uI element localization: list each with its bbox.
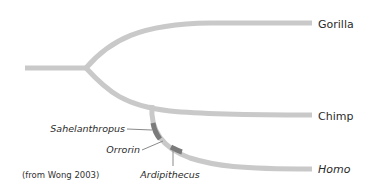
orrorin-leader: [142, 141, 163, 150]
fossil-label-sahelanthropus: Sahelanthropus: [50, 123, 125, 134]
phylogenetic-tree: Gorilla Chimp Homo Sahelanthropus Orrori…: [0, 0, 367, 193]
fossil-label-orrorin: Orrorin: [106, 144, 140, 155]
sahelanthropus-leader: [127, 129, 152, 130]
gorilla-branch: [86, 23, 312, 68]
taxon-label-homo: Homo: [318, 163, 351, 176]
source-caption: (from Wong 2003): [22, 170, 99, 180]
chimp-branch: [86, 68, 312, 115]
taxon-label-gorilla: Gorilla: [318, 18, 354, 31]
taxon-label-chimp: Chimp: [318, 110, 353, 123]
fossil-label-ardipithecus: Ardipithecus: [139, 169, 200, 180]
